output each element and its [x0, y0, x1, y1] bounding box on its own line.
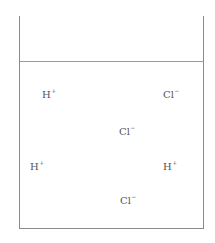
ion-charge: + [172, 159, 177, 166]
ion-symbol: H [30, 161, 39, 172]
beaker: H+ Cl− Cl− H+ H+ Cl− [0, 0, 215, 243]
ion-symbol: Cl [119, 126, 130, 137]
solution-surface-line [19, 61, 204, 62]
ion-charge: − [131, 193, 136, 200]
ion-charge: + [51, 87, 56, 94]
ion-symbol: H [42, 89, 51, 100]
ion-charge: + [39, 159, 44, 166]
ion-chloride-1: Cl− [163, 90, 179, 100]
ion-charge: − [130, 124, 135, 131]
ion-charge: − [174, 87, 179, 94]
ion-symbol: Cl [120, 195, 131, 206]
ion-symbol: H [163, 161, 172, 172]
beaker-right-wall [203, 16, 204, 229]
ion-symbol: Cl [163, 89, 174, 100]
ion-hydrogen-3: H+ [163, 162, 177, 172]
beaker-bottom [19, 228, 204, 229]
beaker-left-wall [19, 16, 20, 229]
ion-hydrogen-1: H+ [42, 90, 56, 100]
ion-chloride-3: Cl− [120, 196, 136, 206]
ion-chloride-2: Cl− [119, 127, 135, 137]
ion-hydrogen-2: H+ [30, 162, 44, 172]
